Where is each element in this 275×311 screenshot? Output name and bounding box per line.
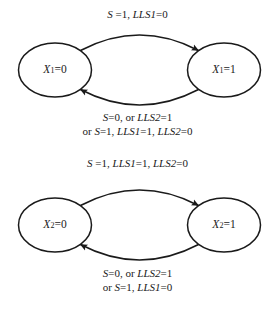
transition-label-x2-1-to-0: S=0, or LLS2=1or S=1, LLS1=0 xyxy=(0,267,275,294)
transition-label-x1-1-to-0: S=0, or LLS2=1or S=1, LLS1=1, LLS2=0 xyxy=(0,111,275,138)
state-label-x2-0: X2=0 xyxy=(20,218,90,233)
state-label-x2-1: X2=1 xyxy=(189,218,259,233)
state-diagram-graphics xyxy=(0,0,275,311)
arrow-x2-0-to-1[interactable] xyxy=(81,190,199,206)
state-label-x1-0: X1=0 xyxy=(20,63,90,78)
arrow-x1-1-to-0[interactable] xyxy=(81,90,199,106)
figure-canvas: X1=0 X1=1 X2=0 X2=1 S =1, LLS1=0 S=0, or… xyxy=(0,0,275,311)
transition-label-x2-0-to-1: S =1, LLS1=1, LLS2=0 xyxy=(0,157,275,171)
arrow-x2-1-to-0[interactable] xyxy=(81,245,199,261)
arrow-x1-0-to-1[interactable] xyxy=(81,35,199,51)
transition-label-x1-0-to-1: S =1, LLS1=0 xyxy=(0,8,275,22)
state-label-x1-1: X1=1 xyxy=(189,63,259,78)
